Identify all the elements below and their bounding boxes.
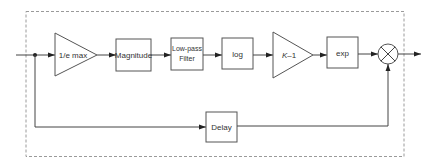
multiplier-block [378,44,398,64]
lowpass-label-line2: Filter [179,55,195,62]
log-label: log [232,50,243,59]
gain-1-label: 1/e max [59,51,87,60]
exp-label: exp [336,49,349,58]
lowpass-label-line1: Low-pass [172,45,202,53]
delay-label: Delay [211,123,231,132]
gain-k-rest: –1 [287,51,296,60]
gain-k-minus-1-block: K–1 [273,32,313,78]
gain-k-label: K–1 [282,51,297,60]
wire-delay-to-multiplier [237,64,388,126]
magnitude-block: Magnitude [115,39,153,71]
magnitude-label: Magnitude [115,51,153,60]
gain-1-over-e-max-block: 1/e max [55,33,97,76]
delay-block: Delay [206,112,237,142]
exp-block: exp [327,37,358,68]
log-block: log [222,38,253,69]
lowpass-filter-block: Low-pass Filter [171,38,203,70]
block-diagram: 1/e max Magnitude Low-pass Filter log K–… [0,0,433,165]
